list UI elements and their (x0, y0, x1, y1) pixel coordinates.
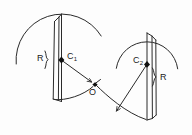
label-center-c1-subscript: 1 (74, 56, 77, 62)
label-origin-o: O (89, 88, 96, 97)
band-left-top-cap (55, 14, 62, 22)
curve-left-to-o (54, 87, 93, 100)
label-center-c2: C2 (133, 56, 143, 65)
band-left-inner (58, 17, 59, 101)
label-center-c2-subscript: 2 (140, 60, 143, 66)
geometry-diagram: R C1 C2 R O (0, 0, 192, 135)
band-right-top-cap (147, 33, 156, 40)
label-radius-right: R (160, 73, 167, 82)
band-left-outer-left (53, 22, 54, 100)
brace-left-radius (45, 51, 48, 69)
point-c1-marker (58, 57, 64, 64)
radius-line-c1-to-o (62, 61, 92, 83)
band-right-bottom-cap (147, 115, 156, 120)
label-center-c1: C1 (67, 52, 77, 61)
label-radius-left: R (37, 54, 44, 63)
diagram-canvas (0, 0, 192, 135)
curve-o-to-right (97, 86, 147, 120)
radius-line-c2-to-curve (117, 65, 147, 111)
